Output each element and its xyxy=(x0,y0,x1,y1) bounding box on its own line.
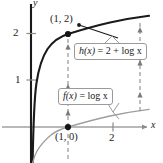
f-function-equation: = log x xyxy=(77,90,108,101)
x-tick-label-2: 2 xyxy=(109,132,115,143)
shift-arrow-right xyxy=(137,22,142,111)
h-function-equation: = 2 + log x xyxy=(95,45,142,56)
x-axis-label: x xyxy=(151,120,155,130)
f-function-callout: f(x) = log x xyxy=(58,88,113,105)
y-axis-label: y xyxy=(33,0,37,8)
point-1-2-label: (1, 2) xyxy=(50,14,73,25)
curve-f xyxy=(33,109,149,163)
point-1-0-dot xyxy=(65,124,71,130)
graph-canvas xyxy=(0,0,163,163)
h-function-callout: h(x) = 2 + log x xyxy=(74,43,147,60)
y-tick-label-2: 2 xyxy=(13,27,19,38)
y-tick-label-1: 1 xyxy=(15,74,21,85)
f-function-name: f(x) xyxy=(63,90,77,101)
y-axis xyxy=(27,4,37,163)
point-1-2-dot xyxy=(65,31,71,37)
point-1-0-label: (1, 0) xyxy=(55,132,78,143)
logarithm-shift-figure: 2 1 2 x y (1, 2) (1, 0) h(x) = 2 + log x… xyxy=(0,0,163,163)
h-function-name: h(x) xyxy=(79,45,95,56)
